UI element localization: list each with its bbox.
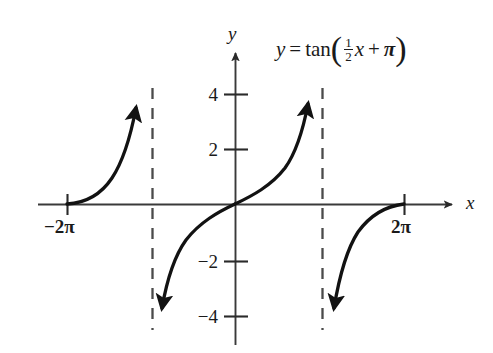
equation-open-paren: (	[331, 35, 342, 62]
equation-variable: x	[355, 37, 364, 62]
curve-branch-middle-upper	[235, 104, 308, 204]
y-tick-label-4: 4	[190, 84, 218, 106]
fraction-numerator: 1	[344, 36, 353, 49]
x-tick-label-2pi: 2π	[391, 216, 411, 238]
equation-equals: =	[289, 37, 301, 62]
y-tick-label-minus-4: −4	[185, 306, 218, 328]
fraction-denominator: 2	[344, 49, 353, 63]
curve-branch-left	[67, 108, 136, 204]
asymptote-lines	[153, 88, 323, 330]
y-tick-label-minus-2: −2	[185, 251, 218, 273]
tangent-function-graph	[0, 0, 493, 353]
x-tick-label-minus-2pi: −2π	[44, 216, 75, 238]
x-axis-label: x	[466, 192, 474, 214]
y-axis-label: y	[228, 23, 236, 45]
equation-plus: +	[368, 37, 380, 62]
equation-pi-symbol: π	[384, 37, 395, 62]
y-tick-label-2: 2	[190, 139, 218, 161]
equation-annotation: y = tan ( 1 2 x + π )	[276, 36, 407, 64]
equation-function-name: tan	[305, 37, 331, 62]
equation-lhs: y	[276, 37, 285, 62]
equation-close-paren: )	[395, 35, 406, 62]
equation-fraction: 1 2	[344, 36, 353, 64]
